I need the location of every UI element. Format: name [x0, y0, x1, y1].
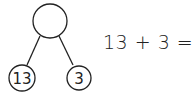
whole-circle	[33, 4, 67, 38]
left-connector-line	[27, 36, 40, 65]
part-left-value: 13	[12, 70, 31, 88]
equation-right: 3	[158, 31, 171, 53]
part-right-value: 3	[74, 70, 84, 88]
equation-operator: +	[135, 31, 151, 53]
equation-left: 13	[103, 31, 128, 53]
equation-equals: =	[177, 31, 193, 53]
right-connector-line	[59, 36, 73, 65]
equation: 13 + 3 = 16	[103, 31, 193, 53]
